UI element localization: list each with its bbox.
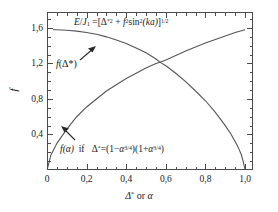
upper-curve-label: f(Δ*) xyxy=(56,58,77,69)
eq-top-plus: + xyxy=(115,17,120,27)
x-tick-label: 0 xyxy=(45,174,50,184)
tick-mark xyxy=(116,12,117,16)
x-axis-title: Δ* or α xyxy=(0,190,278,201)
tick-mark xyxy=(47,81,51,82)
x-axis-alpha-symbol: α xyxy=(148,190,153,201)
eq-bottom-f-arg: (α) xyxy=(63,144,74,154)
tick-mark xyxy=(186,167,187,171)
tick-mark xyxy=(215,167,216,171)
tick-mark xyxy=(156,12,157,16)
tick-mark xyxy=(47,143,51,144)
tick-mark xyxy=(47,28,53,29)
y-tick-label: 1,2 xyxy=(21,58,43,68)
tick-mark xyxy=(250,126,254,127)
tick-mark xyxy=(47,12,48,18)
tick-mark xyxy=(205,164,206,170)
tick-mark xyxy=(47,152,51,153)
tick-mark xyxy=(57,12,58,16)
tick-mark xyxy=(225,12,226,16)
tick-mark xyxy=(47,134,53,135)
eq-top-J-sub: 1 xyxy=(87,20,90,27)
y-tick-label: 0,4 xyxy=(21,129,43,139)
tick-mark xyxy=(47,72,51,73)
tick-mark xyxy=(225,167,226,171)
y-tick-label: 1,6 xyxy=(21,23,43,33)
tick-mark xyxy=(77,167,78,171)
tick-mark xyxy=(235,12,236,16)
tick-mark xyxy=(250,117,254,118)
tick-mark xyxy=(247,99,253,100)
upper-curve-arg: (Δ*) xyxy=(59,58,77,69)
tick-mark xyxy=(250,19,254,20)
eq-bottom-p1-exp: 3/4 xyxy=(124,145,132,151)
x-axis-or-word: or xyxy=(137,190,145,201)
tick-mark xyxy=(205,12,206,18)
top-equation-annotation: E/J1 =[Δ*2 + f2sin2(ka)]1/2 xyxy=(74,17,169,27)
eq-top-sin: sin xyxy=(128,17,139,27)
tick-mark xyxy=(250,152,254,153)
tick-mark xyxy=(77,12,78,16)
eq-bottom-p2-open: (1+ xyxy=(135,144,148,154)
tick-mark xyxy=(126,164,127,170)
tick-mark xyxy=(47,19,51,20)
tick-mark xyxy=(116,167,117,171)
tick-mark xyxy=(166,164,167,170)
tick-mark xyxy=(47,46,51,47)
tick-mark xyxy=(67,12,68,16)
eq-top-delta-exp: *2 xyxy=(107,18,113,24)
tick-mark xyxy=(250,161,254,162)
tick-mark xyxy=(47,99,53,100)
tick-mark xyxy=(250,72,254,73)
x-tick-label: 1,0 xyxy=(239,174,251,184)
eq-top-close-exp: 1/2 xyxy=(161,18,169,24)
tick-mark xyxy=(47,37,51,38)
tick-mark xyxy=(250,81,254,82)
tick-mark xyxy=(67,167,68,171)
tick-mark xyxy=(47,108,51,109)
tick-mark xyxy=(97,12,98,16)
chart-figure: 00,20,40,60,81,0 0,40,81,21,6 Δ* or α f … xyxy=(0,0,278,212)
tick-mark xyxy=(47,55,51,56)
tick-mark xyxy=(136,167,137,171)
tick-mark xyxy=(97,167,98,171)
tick-mark xyxy=(250,46,254,47)
tick-mark xyxy=(146,167,147,171)
tick-mark xyxy=(176,12,177,16)
eq-bottom-p2-exp: 3/4 xyxy=(153,145,161,151)
x-tick-label: 0,2 xyxy=(81,174,93,184)
tick-mark xyxy=(245,164,246,170)
tick-mark xyxy=(47,63,53,64)
y-tick-label: 0,8 xyxy=(21,94,43,104)
bottom-equation-annotation: f(α) if Δ*=(1−α3/4)(1+α3/4) xyxy=(60,144,164,154)
tick-mark xyxy=(136,12,137,16)
tick-mark xyxy=(196,167,197,171)
tick-mark xyxy=(156,167,157,171)
tick-mark xyxy=(106,167,107,171)
eq-top-E: E xyxy=(74,17,80,27)
tick-mark xyxy=(186,12,187,16)
tick-mark xyxy=(106,12,107,16)
x-tick-label: 0,6 xyxy=(160,174,172,184)
eq-top-sin-arg: (ka) xyxy=(143,17,158,27)
tick-mark xyxy=(215,12,216,16)
tick-mark xyxy=(245,12,246,18)
x-tick-label: 0,4 xyxy=(120,174,132,184)
tick-mark xyxy=(247,63,253,64)
tick-mark xyxy=(87,164,88,170)
tick-mark xyxy=(247,134,253,135)
x-tick-label: 0,8 xyxy=(200,174,212,184)
tick-mark xyxy=(57,167,58,171)
tick-mark xyxy=(47,117,51,118)
tick-mark xyxy=(47,90,51,91)
tick-mark xyxy=(235,167,236,171)
tick-mark xyxy=(250,108,254,109)
eq-bottom-p1-open: (1− xyxy=(106,144,119,154)
tick-mark xyxy=(176,167,177,171)
tick-mark xyxy=(47,164,48,170)
eq-bottom-if: if xyxy=(79,144,85,154)
x-axis-star: * xyxy=(131,190,134,197)
tick-mark xyxy=(250,143,254,144)
tick-mark xyxy=(247,28,253,29)
tick-mark xyxy=(196,12,197,16)
tick-mark xyxy=(146,12,147,16)
